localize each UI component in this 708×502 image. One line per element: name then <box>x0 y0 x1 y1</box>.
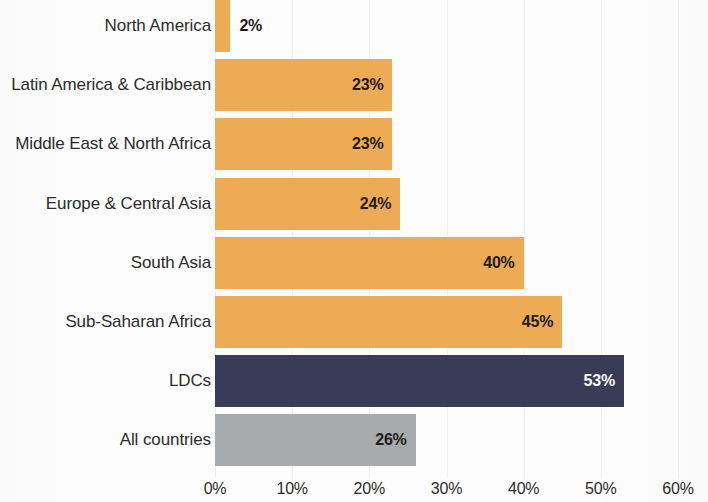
category-label: LDCs <box>169 355 211 407</box>
bar-value-label: 23% <box>352 135 392 153</box>
bar-row: Europe & Central Asia24% <box>0 178 708 230</box>
x-axis-tick-label: 0% <box>180 480 250 498</box>
bar-row: North America2% <box>0 0 708 52</box>
category-label: South Asia <box>131 237 211 289</box>
bar[interactable]: 53% <box>215 355 624 407</box>
x-axis-tick-label: 30% <box>412 480 482 498</box>
x-axis-tick-label: 10% <box>257 480 327 498</box>
bar-chart: North America2%Latin America & Caribbean… <box>0 0 708 502</box>
category-label: Sub-Saharan Africa <box>65 296 211 348</box>
bar-track: 40% <box>215 237 678 289</box>
bar[interactable]: 45% <box>215 296 562 348</box>
bar[interactable] <box>215 0 230 52</box>
bar-value-label: 2% <box>239 0 262 52</box>
bar-track: 2% <box>215 0 678 52</box>
x-axis-tick-label: 40% <box>489 480 559 498</box>
bar[interactable]: 23% <box>215 118 392 170</box>
x-axis-tick-label: 20% <box>334 480 404 498</box>
bar-row: Middle East & North Africa23% <box>0 118 708 170</box>
bar-value-label: 53% <box>584 372 624 390</box>
plot-area: North America2%Latin America & Caribbean… <box>0 0 708 478</box>
bar-track: 26% <box>215 414 678 466</box>
bar-track: 24% <box>215 178 678 230</box>
bar-row: Latin America & Caribbean23% <box>0 59 708 111</box>
x-axis-tick-label: 60% <box>643 480 708 498</box>
bar-value-label: 23% <box>352 76 392 94</box>
bar[interactable]: 23% <box>215 59 392 111</box>
category-label: All countries <box>120 414 211 466</box>
x-axis: 0%10%20%30%40%50%60% <box>0 478 708 502</box>
bar[interactable]: 26% <box>215 414 416 466</box>
category-label: Latin America & Caribbean <box>11 59 211 111</box>
bar-rows: North America2%Latin America & Caribbean… <box>0 0 708 478</box>
bar-value-label: 40% <box>483 254 523 272</box>
bar-row: South Asia40% <box>0 237 708 289</box>
x-axis-tick-label: 50% <box>566 480 636 498</box>
category-label: Europe & Central Asia <box>46 178 211 230</box>
bar-value-label: 45% <box>522 313 562 331</box>
bar-value-label: 26% <box>375 431 415 449</box>
bar-value-label: 24% <box>360 195 400 213</box>
bar-track: 23% <box>215 118 678 170</box>
category-label: Middle East & North Africa <box>15 118 211 170</box>
category-label: North America <box>105 0 211 52</box>
bar-track: 53% <box>215 355 678 407</box>
bar-track: 23% <box>215 59 678 111</box>
bar[interactable]: 24% <box>215 178 400 230</box>
bar-row: LDCs53% <box>0 355 708 407</box>
bar-row: All countries26% <box>0 414 708 466</box>
bar[interactable]: 40% <box>215 237 524 289</box>
bar-track: 45% <box>215 296 678 348</box>
bar-row: Sub-Saharan Africa45% <box>0 296 708 348</box>
